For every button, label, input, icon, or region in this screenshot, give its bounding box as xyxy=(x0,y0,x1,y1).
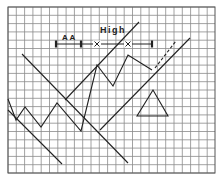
high-label: High xyxy=(100,25,126,35)
price-path xyxy=(8,55,152,131)
measure-label: A A xyxy=(62,33,75,42)
long-descending-line xyxy=(22,54,128,163)
chart-canvas: High A A xyxy=(0,0,218,179)
triangle-shape xyxy=(137,90,168,116)
